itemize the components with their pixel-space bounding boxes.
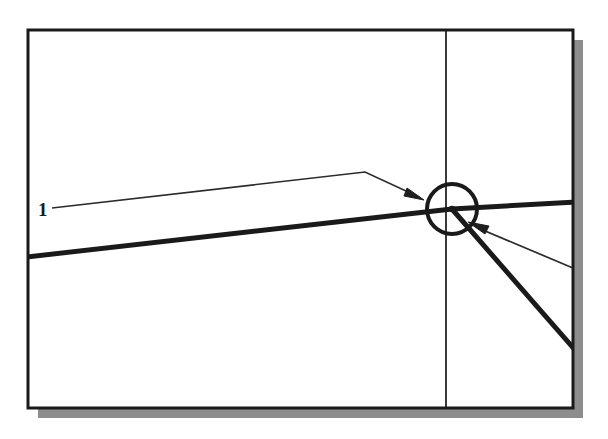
cad-line-drawing: 1 <box>0 0 608 439</box>
drawing-canvas: 1 <box>0 0 608 439</box>
intersection-point-marker <box>449 206 455 212</box>
drawing-frame-fill <box>28 30 573 408</box>
vertex-label-1: 1 <box>38 199 48 220</box>
